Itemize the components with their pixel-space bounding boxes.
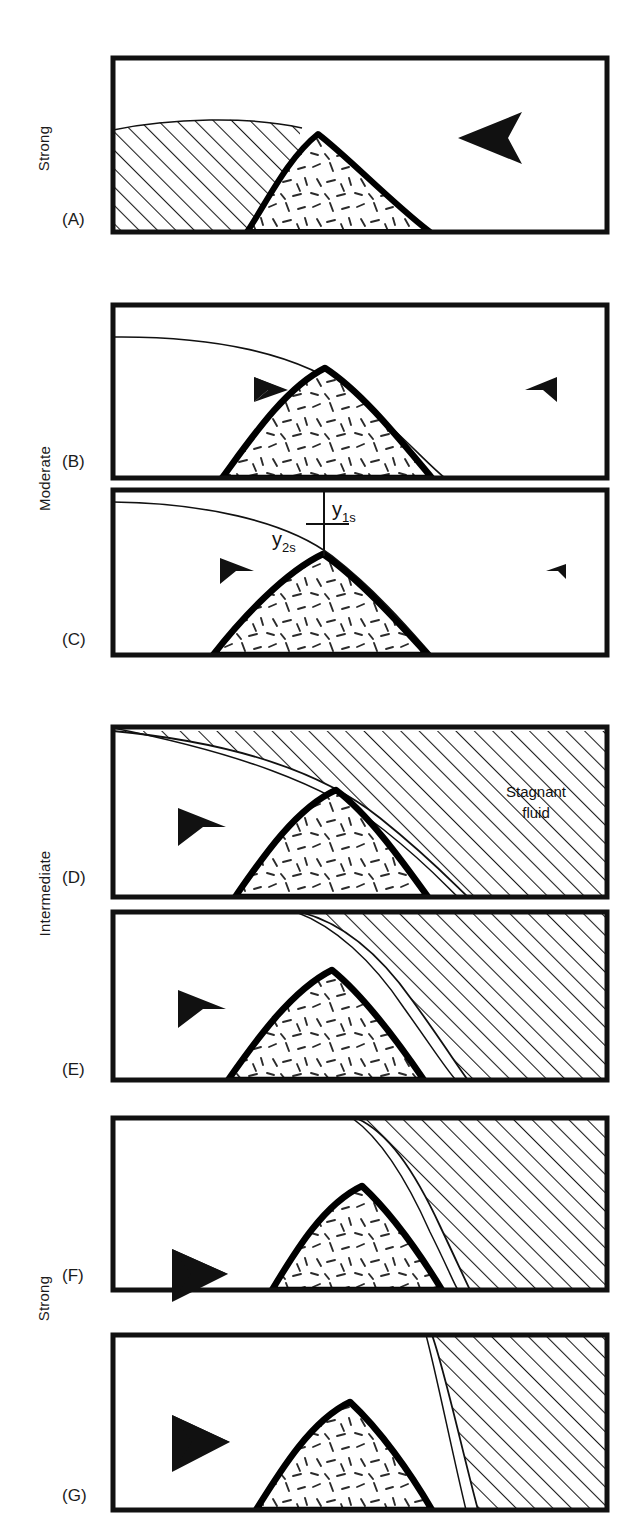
group-label-intermediate: Intermediate bbox=[36, 821, 53, 966]
panel-f bbox=[113, 1118, 607, 1302]
panel-letter-g: (G) bbox=[62, 1486, 87, 1506]
flow-arrow-a-left-icon bbox=[458, 112, 522, 164]
label-y2s-subscript: 2s bbox=[282, 540, 296, 555]
panel-c bbox=[113, 490, 607, 655]
flow-arrow-b-left-icon bbox=[525, 377, 557, 402]
panel-e bbox=[113, 912, 607, 1080]
label-y1s-base: y bbox=[332, 498, 342, 520]
flow-arrow-d-right-icon bbox=[178, 808, 226, 846]
figure-root: Strong Moderate Intermediate Strong (A) … bbox=[0, 0, 642, 1537]
mound-f bbox=[272, 1186, 442, 1290]
panel-g bbox=[113, 1335, 607, 1510]
panel-a bbox=[113, 58, 607, 232]
flow-arrow-c-right-icon bbox=[220, 558, 254, 584]
panel-letter-b: (B) bbox=[62, 452, 85, 472]
panel-letter-e: (E) bbox=[62, 1060, 85, 1080]
stagnant-fluid-label-line2: fluid bbox=[522, 804, 550, 821]
label-y2s: y2s bbox=[272, 528, 296, 555]
panel-letter-d: (D) bbox=[62, 868, 86, 888]
panel-letter-c: (C) bbox=[62, 630, 86, 650]
panel-letter-f: (F) bbox=[62, 1266, 84, 1286]
group-label-moderate: Moderate bbox=[36, 424, 53, 534]
label-y2s-base: y bbox=[272, 528, 282, 550]
group-label-strong-bottom: Strong bbox=[35, 1254, 52, 1344]
mound-g bbox=[256, 1402, 432, 1510]
flow-arrow-e-right-icon bbox=[178, 990, 226, 1028]
flow-arrow-c-left-icon bbox=[546, 564, 566, 579]
mound-b bbox=[222, 368, 432, 478]
label-y1s: y1s bbox=[332, 498, 356, 525]
mound-e bbox=[228, 970, 424, 1080]
panel-b bbox=[113, 305, 607, 478]
diagram-canvas: y1s y2s Stagnant fluid bbox=[0, 0, 642, 1537]
label-y1s-subscript: 1s bbox=[342, 510, 356, 525]
stagnant-fluid-label-line1: Stagnant bbox=[506, 783, 567, 800]
group-label-strong-top: Strong bbox=[35, 104, 52, 194]
panel-letter-a: (A) bbox=[62, 210, 85, 230]
